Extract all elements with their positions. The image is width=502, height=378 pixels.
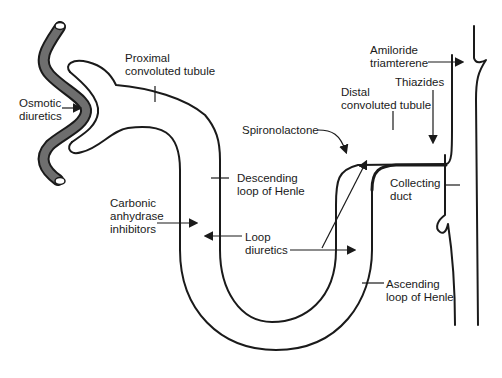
label-carbonic-anhydrase: Carbonic anhydrase inhibitors	[110, 197, 164, 236]
loop-outer	[180, 190, 372, 350]
label-distal-tubule: Distal convoluted tubule	[341, 86, 431, 112]
label-proximal-tubule: Proximal convoluted tubule	[125, 52, 215, 78]
label-osmotic-diuretics: Osmotic diuretics	[19, 97, 62, 123]
label-thiazides: Thiazides	[395, 76, 444, 89]
label-descending-loop: Descending loop of Henle	[237, 172, 305, 198]
nephron-diagram: Proximal convoluted tubule Descending lo…	[0, 0, 502, 378]
collecting-duct-right	[474, 26, 486, 325]
spironolactone-arrow	[318, 130, 346, 152]
label-ascending-loop: Ascending loop of Henle	[386, 278, 454, 304]
loop-arrow-diagonal	[322, 162, 366, 248]
label-collecting-duct: Collecting duct	[390, 177, 441, 203]
label-spironolactone: Spironolactone	[242, 124, 319, 137]
label-loop-diuretics: Loop diuretics	[245, 231, 288, 257]
label-amiloride-triamterene: Amiloride triamterene	[370, 44, 428, 70]
loop-inner	[220, 205, 336, 322]
